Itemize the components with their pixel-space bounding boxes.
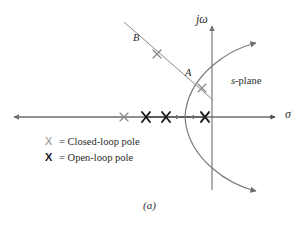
- root-locus-canvas: [0, 0, 303, 227]
- legend-item-closed-loop-pole: X = Closed-loop pole: [45, 133, 140, 149]
- s-plane-label-suffix: -plane: [235, 75, 261, 86]
- real-axis-label: σ: [285, 108, 291, 120]
- legend: X = Closed-loop pole X = Open-loop pole: [45, 133, 140, 165]
- locus-branch-lower: [185, 117, 256, 191]
- point-label-a: A: [185, 68, 191, 79]
- legend-item-open-loop-pole-label: = Open-loop pole: [59, 152, 133, 163]
- legend-item-closed-loop-pole-label: = Closed-loop pole: [59, 136, 140, 147]
- legend-item-open-loop-pole: X = Open-loop pole: [45, 149, 140, 165]
- point-label-b: B: [133, 33, 139, 44]
- root-locus-figure: jω σ s-plane A B X = Closed-loop pole X …: [0, 0, 303, 227]
- closed-loop-pole-icon: X: [45, 135, 58, 147]
- open-loop-pole-icon: X: [45, 151, 58, 163]
- imaginary-axis-label: jω: [196, 13, 208, 25]
- figure-caption: (a): [143, 200, 156, 211]
- s-plane-label: s-plane: [231, 76, 261, 87]
